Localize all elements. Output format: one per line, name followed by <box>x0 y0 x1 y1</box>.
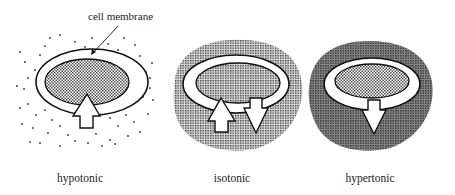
callout-line <box>93 26 118 53</box>
diagram-graphic <box>0 0 455 195</box>
isotonic-label: isotonic <box>214 172 250 184</box>
hypertonic-label: hypertonic <box>345 172 394 184</box>
hypotonic-label: hypotonic <box>57 172 103 184</box>
cell-interior <box>196 63 280 103</box>
osmosis-diagram: cell membrane hypotonic isotonic hyperto… <box>0 0 455 195</box>
callout-label: cell membrane <box>88 10 153 22</box>
isotonic-panel <box>174 40 302 151</box>
hypertonic-panel <box>309 41 433 151</box>
cell-interior <box>335 64 409 98</box>
hypotonic-panel <box>16 26 154 147</box>
